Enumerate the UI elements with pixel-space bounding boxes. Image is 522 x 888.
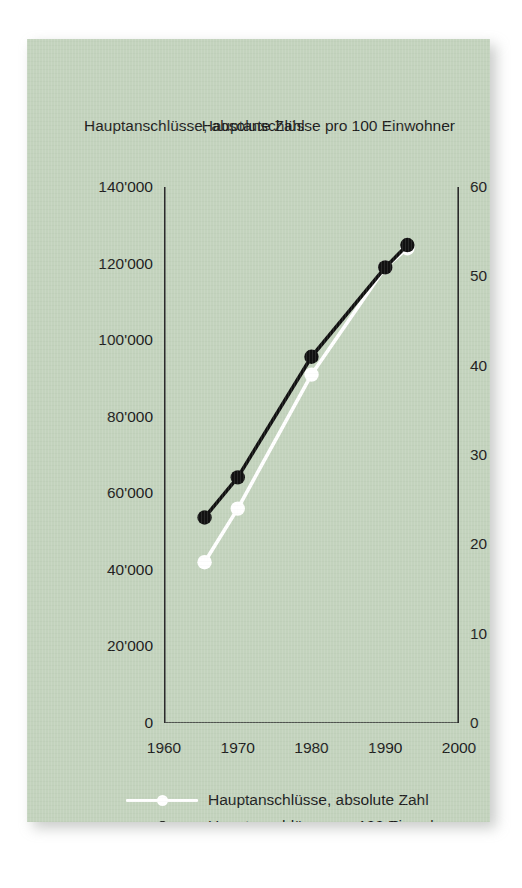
y2-axis-tick-label: 0: [470, 714, 479, 732]
y-axis-tick-label: 0: [144, 714, 153, 732]
data-point: [400, 238, 414, 252]
y2-axis-tick-label: 50: [470, 267, 487, 285]
data-point: [197, 555, 211, 569]
legend-item: Hauptanschlüsse pro 100 Einwohner: [126, 813, 486, 822]
y2-axis-tick-label: 20: [470, 535, 487, 553]
axis-spine: [165, 187, 458, 723]
data-point: [231, 470, 245, 484]
chart-legend: Hauptanschlüsse, absolute ZahlHauptansch…: [126, 787, 486, 822]
legend-label: Hauptanschlüsse pro 100 Einwohner: [208, 817, 461, 822]
chart-figure: Hauptanschlüsse, absolute Zahl Hauptansc…: [0, 0, 522, 888]
chart-panel: Hauptanschlüsse, absolute Zahl Hauptansc…: [27, 39, 490, 822]
legend-swatch: [126, 817, 198, 822]
y-axis-tick-label: 20'000: [107, 637, 153, 655]
y-axis-tick-label: 60'000: [107, 484, 153, 502]
y-axis-tick-label: 140'000: [98, 178, 153, 196]
chart-svg: [164, 187, 459, 723]
x-axis-tick-label: 2000: [442, 739, 476, 757]
right-axis-title: Hauptanschlüsse pro 100 Einwohner: [202, 115, 455, 136]
legend-marker-icon: [157, 821, 168, 823]
data-point: [304, 350, 318, 364]
data-point: [378, 260, 392, 274]
y-axis-tick-label: 40'000: [107, 561, 153, 579]
data-point: [304, 367, 318, 381]
y-axis-tick-label: 120'000: [98, 255, 153, 273]
legend-label: Hauptanschlüsse, absolute Zahl: [208, 791, 429, 809]
y-axis-tick-label: 80'000: [107, 408, 153, 426]
data-point: [197, 510, 211, 524]
data-point: [231, 501, 245, 515]
plot-area: [164, 187, 459, 723]
legend-marker-icon: [157, 795, 168, 806]
legend-item: Hauptanschlüsse, absolute Zahl: [126, 787, 486, 813]
x-axis-tick-label: 1990: [368, 739, 402, 757]
x-axis-tick-label: 1980: [294, 739, 328, 757]
y-axis-tick-label: 100'000: [98, 331, 153, 349]
y2-axis-tick-label: 30: [470, 446, 487, 464]
y2-axis-tick-label: 60: [470, 178, 487, 196]
y2-axis-tick-label: 10: [470, 625, 487, 643]
legend-swatch: [126, 791, 198, 809]
x-axis-tick-label: 1970: [221, 739, 255, 757]
x-axis-tick-label: 1960: [147, 739, 181, 757]
y2-axis-tick-label: 40: [470, 357, 487, 375]
